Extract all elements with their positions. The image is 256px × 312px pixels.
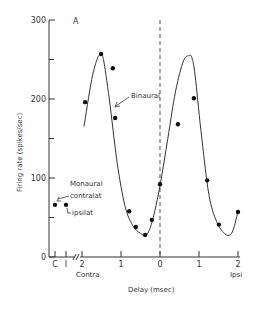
axes: [49, 20, 240, 260]
binaural-point: [83, 100, 87, 104]
monaural-point: [53, 203, 57, 207]
x-ticks: 21012CI: [52, 251, 240, 269]
monaural-tick-label: I: [65, 260, 67, 269]
y-axis-label: Firing rate (spikes/sec): [16, 112, 24, 192]
ipsilat-arrow: [67, 208, 71, 213]
monaural-tick-label: C: [52, 260, 58, 269]
binaural-point: [150, 218, 154, 222]
binaural-point: [143, 233, 147, 237]
binaural-point: [205, 178, 209, 182]
binaural-point: [111, 66, 115, 70]
x-tick-label: 2: [235, 260, 240, 269]
ipsilat-label: ipsilat: [72, 209, 93, 217]
binaural-point: [99, 52, 103, 56]
contralat-arrow: [58, 196, 69, 199]
x-tick-label: 0: [157, 260, 162, 269]
y-tick-label: 100: [31, 174, 46, 183]
firing-rate-chart: 0100200300 21012CI A Firing rate (spikes…: [0, 0, 256, 312]
x-tick-label: 1: [196, 260, 201, 269]
monaural-point: [64, 203, 68, 207]
binaural-point: [134, 225, 138, 229]
binaural-label: Binaural: [131, 92, 160, 100]
y-tick-label: 200: [31, 95, 46, 104]
y-ticks: 0100200300: [31, 16, 55, 262]
binaural-point: [158, 182, 162, 186]
panel-label: A: [73, 17, 79, 26]
binaural-fit-curve: [84, 55, 238, 236]
contralat-label: contralat: [70, 192, 102, 200]
y-tick-label: 300: [31, 16, 46, 25]
binaural-point: [217, 222, 221, 226]
binaural-arrow: [116, 97, 129, 106]
y-tick-label: 0: [41, 253, 46, 262]
x-tick-label: 1: [118, 260, 123, 269]
binaural-point: [113, 116, 117, 120]
monaural-label: Monaural: [70, 180, 103, 188]
x-axis-label: Delay (msec): [128, 286, 175, 294]
binaural-point: [192, 96, 196, 100]
x-tick-label: 2: [79, 260, 84, 269]
binaural-point: [236, 210, 240, 214]
monaural-points: [53, 203, 68, 207]
ipsi-label: Ipsi: [230, 271, 242, 279]
binaural-point: [176, 122, 180, 126]
contra-label: Contra: [76, 271, 100, 279]
binaural-point: [127, 209, 131, 213]
